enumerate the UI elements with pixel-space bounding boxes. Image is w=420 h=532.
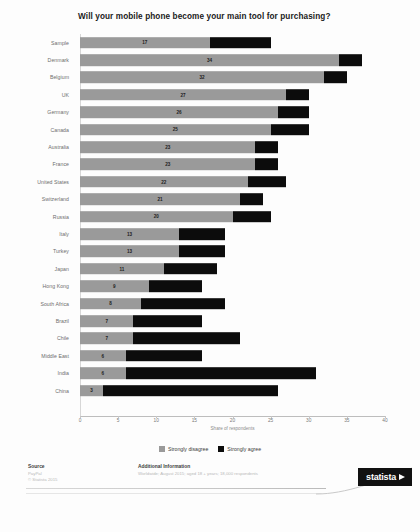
bar-segment-strongly-disagree xyxy=(80,124,271,136)
bar-rows: Sample17Denmark34Belgium32UK27Germany26C… xyxy=(0,34,420,399)
category-label: Turkey xyxy=(0,248,74,254)
chart-plot-area: Sample17Denmark34Belgium32UK27Germany26C… xyxy=(0,34,420,416)
bar-row: Brazil7 xyxy=(0,312,420,329)
bar-segment-strongly-disagree xyxy=(80,367,126,379)
bar-row: Denmark34 xyxy=(0,51,420,68)
legend-item[interactable]: Strongly disagree xyxy=(159,446,208,452)
bar-row: France23 xyxy=(0,156,420,173)
bar-track: 13 xyxy=(80,228,385,240)
bar-segment-strongly-disagree xyxy=(80,211,233,223)
bar-row: Italy13 xyxy=(0,225,420,242)
bar-row: Japan11 xyxy=(0,260,420,277)
category-label: Belgium xyxy=(0,74,74,80)
chart-footer: Source PayPal © Statista 2015 Additional… xyxy=(0,462,420,532)
statista-logo: statista xyxy=(358,468,412,486)
bar-segment-strongly-disagree xyxy=(80,263,164,275)
legend-label: Strongly agree xyxy=(227,446,261,452)
bar-segment-strongly-agree xyxy=(179,228,225,240)
category-label: Denmark xyxy=(0,57,74,63)
bar-segment-strongly-agree xyxy=(126,367,317,379)
bar-segment-strongly-agree xyxy=(210,37,271,49)
bar-segment-strongly-agree xyxy=(271,124,309,136)
category-label: Canada xyxy=(0,127,74,133)
category-label: Hong Kong xyxy=(0,283,74,289)
bar-track: 26 xyxy=(80,106,385,118)
bar-segment-strongly-disagree xyxy=(80,159,255,171)
bar-segment-strongly-agree xyxy=(133,315,202,327)
arrow-icon xyxy=(399,474,405,480)
x-tick-label: 0 xyxy=(79,418,82,423)
bar-segment-strongly-disagree xyxy=(80,228,179,240)
bar-row: South Africa8 xyxy=(0,295,420,312)
additional-info-line-1: Worldwide; August 2015; aged 18 + years;… xyxy=(138,471,328,477)
bar-segment-strongly-disagree xyxy=(80,141,255,153)
bar-row: Chile7 xyxy=(0,330,420,347)
bar-track: 6 xyxy=(80,367,385,379)
bar-segment-strongly-disagree xyxy=(80,350,126,362)
bar-segment-strongly-agree xyxy=(240,193,263,205)
category-label: India xyxy=(0,370,74,376)
bar-segment-strongly-agree xyxy=(141,298,225,310)
bar-row: Belgium32 xyxy=(0,69,420,86)
bar-row: Canada25 xyxy=(0,121,420,138)
bar-segment-strongly-agree xyxy=(126,350,202,362)
category-label: Brazil xyxy=(0,318,74,324)
legend-swatch-icon xyxy=(218,446,224,452)
bar-row: Hong Kong9 xyxy=(0,277,420,294)
bar-segment-strongly-disagree xyxy=(80,54,339,66)
bar-track: 20 xyxy=(80,211,385,223)
x-tick-label: 15 xyxy=(192,418,197,423)
bar-segment-strongly-agree xyxy=(179,246,225,258)
bar-segment-strongly-disagree xyxy=(80,298,141,310)
bar-segment-strongly-disagree xyxy=(80,385,103,397)
x-tick-label: 40 xyxy=(382,418,387,423)
bar-segment-strongly-agree xyxy=(255,159,278,171)
bar-segment-strongly-agree xyxy=(233,211,271,223)
x-tick-label: 5 xyxy=(117,418,120,423)
chart-page: Will your mobile phone become your main … xyxy=(0,0,420,532)
bar-row: Australia23 xyxy=(0,138,420,155)
bar-segment-strongly-agree xyxy=(103,385,278,397)
bar-segment-strongly-agree xyxy=(149,280,202,292)
additional-info-block: Additional Information Worldwide; August… xyxy=(138,464,328,477)
footer-divider-secondary xyxy=(26,493,322,494)
category-label: United States xyxy=(0,179,74,185)
bar-track: 32 xyxy=(80,72,385,84)
bar-track: 34 xyxy=(80,54,385,66)
bar-track: 11 xyxy=(80,263,385,275)
bar-track: 27 xyxy=(80,89,385,101)
bar-track: 7 xyxy=(80,315,385,327)
bar-row: UK27 xyxy=(0,86,420,103)
category-label: Chile xyxy=(0,335,74,341)
bar-track: 17 xyxy=(80,37,385,49)
category-label: France xyxy=(0,161,74,167)
category-label: Sample xyxy=(0,40,74,46)
category-label: Germany xyxy=(0,109,74,115)
bar-track: 8 xyxy=(80,298,385,310)
bar-row: China3 xyxy=(0,382,420,399)
bar-row: Switzerland21 xyxy=(0,191,420,208)
bar-track: 3 xyxy=(80,385,385,397)
x-tick-label: 25 xyxy=(268,418,273,423)
category-label: Italy xyxy=(0,231,74,237)
bar-segment-strongly-agree xyxy=(164,263,217,275)
category-label: China xyxy=(0,388,74,394)
bar-track: 22 xyxy=(80,176,385,188)
category-label: Australia xyxy=(0,144,74,150)
bar-track: 21 xyxy=(80,193,385,205)
bar-segment-strongly-disagree xyxy=(80,246,179,258)
bar-row: United States22 xyxy=(0,173,420,190)
bar-track: 13 xyxy=(80,246,385,258)
legend-item[interactable]: Strongly agree xyxy=(218,446,261,452)
bar-segment-strongly-agree xyxy=(133,333,240,345)
category-label: Switzerland xyxy=(0,196,74,202)
bar-segment-strongly-agree xyxy=(248,176,286,188)
bar-segment-strongly-disagree xyxy=(80,193,240,205)
bar-segment-strongly-disagree xyxy=(80,280,149,292)
x-tick-label: 35 xyxy=(344,418,349,423)
x-tick-label: 30 xyxy=(306,418,311,423)
source-block: Source PayPal © Statista 2015 xyxy=(28,464,128,483)
legend-label: Strongly disagree xyxy=(168,446,208,452)
bar-segment-strongly-disagree xyxy=(80,72,324,84)
footer-divider xyxy=(26,488,326,489)
